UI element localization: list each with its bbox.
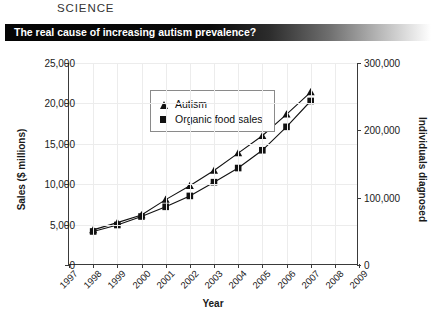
gridline-vertical <box>93 63 94 264</box>
masthead: SCIENCE <box>57 0 177 20</box>
y-axis-tick-label-left: 25,000 <box>44 58 75 69</box>
x-axis-tick <box>93 264 94 268</box>
headline-banner: The real cause of increasing autism prev… <box>5 24 431 41</box>
x-axis-tick <box>359 264 360 268</box>
x-axis-tick <box>287 264 288 268</box>
chart-figure: Sales ($ millions) Individuals diagnosed… <box>0 44 439 320</box>
x-axis-tick <box>238 264 239 268</box>
x-axis-tick <box>190 264 191 268</box>
y-axis-tick-right <box>357 130 361 131</box>
gridline-vertical <box>262 63 263 264</box>
y-axis-tick-label-left: 20,000 <box>44 98 75 109</box>
masthead-cropped-line <box>59 0 99 1</box>
chart-legend: AutismOrganic food sales <box>150 90 275 132</box>
y-axis-tick-label-right: 0 <box>364 260 370 271</box>
x-axis-tick <box>311 264 312 268</box>
y-axis-tick-right <box>357 198 361 199</box>
y-axis-tick-label-right: 100,000 <box>364 192 400 203</box>
gridline-vertical <box>335 63 336 264</box>
x-axis-tick <box>142 264 143 268</box>
gridline-vertical <box>311 63 312 264</box>
masthead-science-label: SCIENCE <box>57 2 114 14</box>
y-axis-tick-label-left: 10,000 <box>44 179 75 190</box>
gridline-vertical <box>166 63 167 264</box>
x-axis-tick <box>335 264 336 268</box>
gridline-vertical <box>190 63 191 264</box>
gridline-vertical <box>117 63 118 264</box>
y-axis-tick-label-left: 15,000 <box>44 138 75 149</box>
x-axis-tick <box>166 264 167 268</box>
x-axis-tick <box>117 264 118 268</box>
gridline-horizontal <box>69 225 357 226</box>
legend-item-label: Organic food sales <box>175 113 263 125</box>
gridline-horizontal <box>69 63 357 64</box>
gridline-horizontal <box>69 103 357 104</box>
gridline-vertical <box>142 63 143 264</box>
gridline-horizontal <box>69 184 357 185</box>
headline-title: The real cause of increasing autism prev… <box>14 26 256 38</box>
gridline-vertical <box>214 63 215 264</box>
square-marker-icon <box>159 114 169 124</box>
gridline-horizontal <box>69 144 357 145</box>
y-axis-tick-label-left: 5,000 <box>50 219 75 230</box>
y-axis-title-left: Sales ($ millions) <box>16 115 27 225</box>
y-axis-title-right: Individuals diagnosed <box>417 110 428 230</box>
y-axis-tick-right <box>357 63 361 64</box>
x-axis-tick <box>214 264 215 268</box>
gridline-vertical <box>238 63 239 264</box>
y-axis-tick-label-right: 300,000 <box>364 58 400 69</box>
x-axis-tick <box>262 264 263 268</box>
legend-item[interactable]: Organic food sales <box>159 111 263 126</box>
plot-area: AutismOrganic food sales <box>68 63 358 265</box>
gridline-vertical <box>287 63 288 264</box>
y-axis-tick-label-right: 200,000 <box>364 125 400 136</box>
